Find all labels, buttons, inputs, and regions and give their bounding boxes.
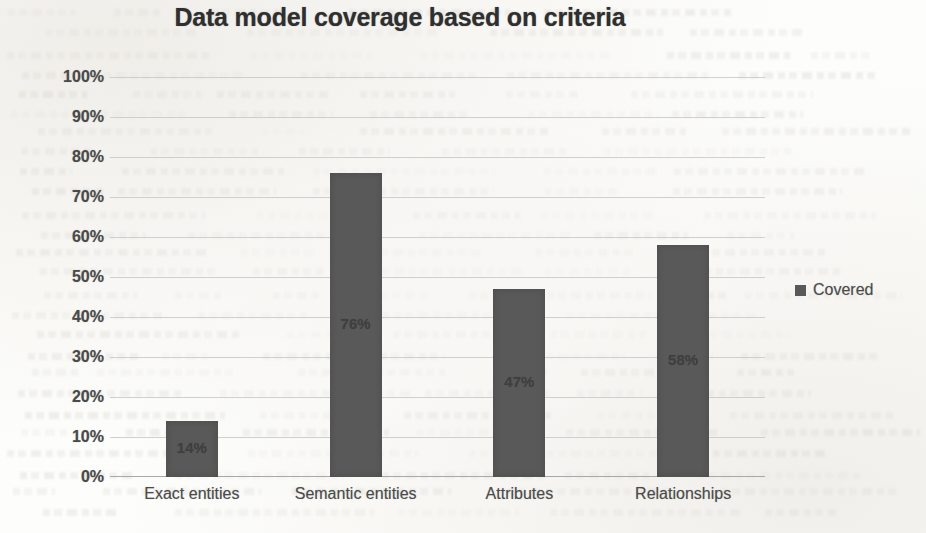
y-axis-tick-label: 50% <box>8 268 104 286</box>
x-axis-tick-label: Exact entities <box>110 485 274 503</box>
y-axis-tick-label: 60% <box>8 228 104 246</box>
gridline <box>110 157 765 158</box>
bar-value-label: 58% <box>657 351 709 368</box>
x-axis-tick-label: Semantic entities <box>274 485 438 503</box>
y-axis-tick-label: 100% <box>8 68 104 86</box>
bar-value-label: 76% <box>330 315 382 332</box>
y-axis-tick-label: 30% <box>8 348 104 366</box>
bar[interactable]: 76% <box>330 173 382 477</box>
y-axis-tick-label: 80% <box>8 148 104 166</box>
plot-area: 14%76%47%58% <box>110 77 765 477</box>
y-axis: 100%90%80%70%60%50%40%30%20%10%0% <box>0 77 104 477</box>
y-axis-tick-label: 40% <box>8 308 104 326</box>
chart-legend: Covered <box>795 281 873 299</box>
y-axis-tick-label: 0% <box>8 468 104 486</box>
bar-value-label: 14% <box>166 439 218 456</box>
bar-value-label: 47% <box>493 373 545 390</box>
x-axis-tick-label: Attributes <box>438 485 602 503</box>
bar[interactable]: 58% <box>657 245 709 477</box>
bar[interactable]: 14% <box>166 421 218 477</box>
y-axis-tick-label: 10% <box>8 428 104 446</box>
x-axis-tick-label: Relationships <box>601 485 765 503</box>
y-axis-tick-label: 90% <box>8 108 104 126</box>
gridline <box>110 117 765 118</box>
bar[interactable]: 47% <box>493 289 545 477</box>
legend-label-covered: Covered <box>813 281 873 299</box>
chart-title: Data model coverage based on criteria <box>0 3 800 32</box>
bar-chart: Data model coverage based on criteria 10… <box>0 0 926 533</box>
y-axis-tick-label: 70% <box>8 188 104 206</box>
y-axis-tick-label: 20% <box>8 388 104 406</box>
gridline <box>110 77 765 78</box>
gridline <box>110 237 765 238</box>
gridline <box>110 197 765 198</box>
legend-swatch-covered <box>795 285 806 296</box>
x-axis: Exact entitiesSemantic entitiesAttribute… <box>110 485 765 515</box>
